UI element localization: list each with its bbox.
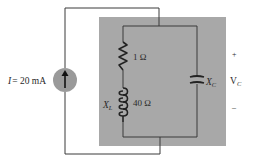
voltage-label: VC [230,76,242,87]
voltage-plus: + [232,50,237,59]
resistor-label: 1 Ω [133,52,147,62]
circuit-diagram: I= 20 mA 1 Ω XL 40 Ω XC + VC – [0,0,254,168]
inductor-value: 40 Ω [133,98,151,108]
voltage-minus: – [231,103,237,112]
source-label: I= 20 mA [7,76,46,86]
current-source-icon [53,68,77,92]
